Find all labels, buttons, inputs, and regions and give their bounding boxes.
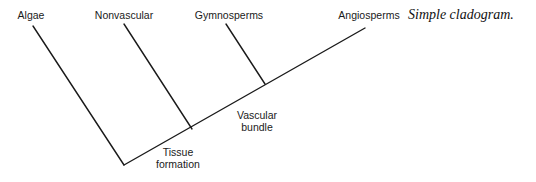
taxon-label-algae: Algae [18,9,45,21]
taxon-label-nonvascular: Nonvascular [95,9,154,21]
taxon-label-gymnosperms: Gymnosperms [195,9,263,21]
cladogram-diagram: Algae Nonvascular Gymnosperms Angiosperm… [0,0,536,182]
node-label-tissue-formation-line1: Tissue [163,146,194,158]
node-label-vascular-bundle-line1: Vascular [237,109,278,121]
taxon-label-angiosperms: Angiosperms [338,9,399,21]
nonvascular-branch-line [124,24,192,129]
algae-branch-line [33,26,124,165]
node-label-tissue-formation-line2: formation [156,158,200,170]
main-stem-line [124,28,365,165]
gymnosperms-branch-line [226,24,265,84]
node-label-vascular-bundle-line2: bundle [241,121,273,133]
figure-caption: Simple cladogram. [408,7,514,22]
